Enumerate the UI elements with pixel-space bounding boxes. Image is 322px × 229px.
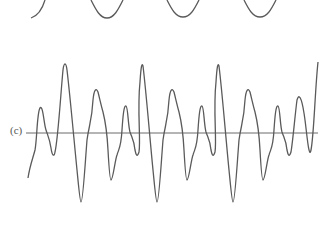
panel-label: (c) bbox=[10, 124, 22, 136]
top-sine-wave bbox=[31, 0, 276, 18]
waveform-plot bbox=[0, 0, 322, 229]
waveform-figure: (c) bbox=[0, 0, 322, 229]
composite-waveform bbox=[28, 62, 318, 202]
